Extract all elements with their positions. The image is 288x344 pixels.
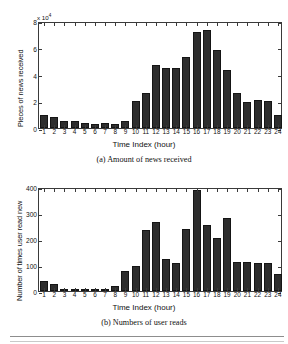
x-tick-mark-top — [186, 23, 187, 26]
x-tick-label: 14 — [173, 129, 180, 135]
x-tick-label: 22 — [254, 129, 261, 135]
x-tick-mark-top — [64, 189, 65, 192]
x-tick-label: 11 — [142, 129, 149, 135]
x-tick-mark-top — [85, 23, 86, 26]
x-tick-mark-top — [105, 189, 106, 192]
chart-a-exponent-label: x 104 — [37, 13, 51, 21]
x-tick-mark-top — [258, 189, 259, 192]
bar — [203, 225, 211, 291]
x-tick-label: 9 — [124, 292, 128, 298]
figure-a-amount-of-news-received: Pieces of news received x 104 0246812345… — [0, 0, 288, 170]
x-tick-label: 24 — [274, 292, 281, 298]
chart-a-plot-area: 0246812345678910111213141516171819202122… — [38, 22, 282, 129]
x-tick-mark-top — [75, 23, 76, 26]
y-tick-label: 2 — [33, 100, 37, 107]
x-tick-label: 15 — [183, 129, 190, 135]
bar — [152, 222, 160, 291]
x-tick-label: 17 — [203, 129, 210, 135]
x-tick-label: 4 — [73, 129, 77, 135]
x-tick-mark-top — [166, 189, 167, 192]
y-tick-mark-right — [278, 76, 281, 77]
figure-b-numbers-of-user-reads: Number of times user read new 0100200300… — [0, 168, 288, 332]
bar — [193, 190, 201, 291]
x-tick-label: 20 — [234, 292, 241, 298]
x-tick-label: 15 — [183, 292, 190, 298]
x-tick-label: 1 — [42, 292, 46, 298]
x-tick-label: 7 — [103, 129, 107, 135]
chart-a-caption: (a) Amount of news received — [0, 155, 288, 164]
chart-a-exponent-power: 4 — [49, 13, 52, 18]
x-tick-mark-top — [146, 189, 147, 192]
y-tick-label: 0 — [33, 127, 37, 134]
x-tick-mark-top — [227, 23, 228, 26]
x-tick-mark-top — [197, 23, 198, 26]
bar — [233, 93, 241, 128]
chart-b-y-tick-mark — [39, 241, 42, 242]
x-tick-mark-top — [166, 23, 167, 26]
bar — [162, 259, 170, 291]
x-tick-mark-top — [176, 23, 177, 26]
x-tick-mark-top — [247, 23, 248, 26]
bar — [162, 68, 170, 128]
chart-b-y-tick-mark — [39, 189, 42, 190]
bar — [233, 262, 241, 291]
x-tick-mark-top — [247, 189, 248, 192]
x-tick-label: 4 — [73, 292, 77, 298]
x-tick-label: 3 — [63, 129, 67, 135]
y-tick-mark-right — [278, 267, 281, 268]
bar — [193, 32, 201, 128]
bar — [223, 218, 231, 291]
bar — [213, 50, 221, 128]
x-tick-label: 12 — [152, 129, 159, 135]
x-tick-mark-top — [136, 189, 137, 192]
chart-a-y-axis-label: Pieces of news received — [16, 50, 25, 127]
bar — [142, 93, 150, 128]
bar — [264, 263, 272, 291]
chart-a-y-tick-mark — [39, 103, 42, 104]
bar — [213, 238, 221, 291]
chart-b-x-axis-label: Time Index (hour) — [0, 303, 288, 312]
x-tick-mark-top — [105, 23, 106, 26]
chart-b-y-axis-label: Number of times user read new — [15, 201, 24, 301]
x-tick-mark-top — [237, 23, 238, 26]
x-tick-mark-top — [95, 189, 96, 192]
x-tick-mark-top — [85, 189, 86, 192]
chart-a-x-axis-label: Time Index (hour) — [0, 140, 288, 149]
chart-b-y-tick-mark — [39, 267, 42, 268]
chart-b-y-tick-mark — [39, 215, 42, 216]
x-tick-mark-top — [278, 23, 279, 26]
y-tick-label: 100 — [26, 264, 37, 271]
bar — [172, 263, 180, 291]
x-tick-mark-top — [197, 189, 198, 192]
x-tick-label: 9 — [124, 129, 128, 135]
x-tick-mark-top — [64, 23, 65, 26]
y-tick-label: 8 — [33, 20, 37, 27]
x-tick-label: 6 — [93, 292, 97, 298]
x-tick-label: 5 — [83, 129, 87, 135]
x-tick-mark-top — [258, 23, 259, 26]
x-tick-mark-top — [268, 23, 269, 26]
x-tick-label: 21 — [244, 129, 251, 135]
chart-b-caption: (b) Numbers of user reads — [0, 318, 288, 327]
x-tick-label: 16 — [193, 129, 200, 135]
x-tick-label: 24 — [274, 129, 281, 135]
x-tick-mark-top — [54, 189, 55, 192]
chart-a-exponent-base: x 10 — [37, 14, 49, 21]
y-tick-label: 0 — [33, 290, 37, 297]
x-tick-mark-top — [217, 189, 218, 192]
y-tick-label: 6 — [33, 46, 37, 53]
x-tick-label: 21 — [244, 292, 251, 298]
x-tick-mark-top — [75, 189, 76, 192]
x-tick-label: 16 — [193, 292, 200, 298]
y-tick-label: 4 — [33, 73, 37, 80]
x-tick-mark-top — [115, 23, 116, 26]
y-tick-label: 400 — [26, 186, 37, 193]
x-tick-label: 19 — [224, 129, 231, 135]
chart-a-y-tick-mark — [39, 49, 42, 50]
x-tick-mark-top — [44, 189, 45, 192]
y-tick-label: 200 — [26, 238, 37, 245]
bar — [132, 101, 140, 128]
page-divider-rule — [10, 336, 284, 337]
x-tick-mark-top — [115, 189, 116, 192]
y-tick-mark-right — [278, 215, 281, 216]
